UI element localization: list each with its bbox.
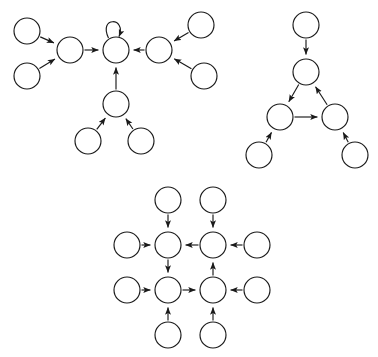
directed-edge xyxy=(174,32,188,41)
graph-node[interactable] xyxy=(191,63,217,89)
graph-node[interactable] xyxy=(155,187,181,213)
figure-canvas xyxy=(0,0,378,357)
directed-graphs-figure xyxy=(0,0,378,357)
top-right-graph-nodes xyxy=(246,12,368,168)
graph-node[interactable] xyxy=(188,12,214,38)
graph-node[interactable] xyxy=(293,59,319,85)
directed-edge xyxy=(39,59,55,68)
directed-edge xyxy=(266,132,271,142)
graph-node[interactable] xyxy=(155,277,181,303)
graph-node[interactable] xyxy=(200,187,226,213)
graph-node[interactable] xyxy=(155,232,181,258)
graph-node[interactable] xyxy=(342,142,368,168)
bottom-graph-nodes xyxy=(114,187,270,348)
graph-node[interactable] xyxy=(322,104,348,130)
graph-node[interactable] xyxy=(57,37,83,63)
directed-edge xyxy=(343,133,348,143)
graph-node[interactable] xyxy=(114,277,140,303)
graph-node[interactable] xyxy=(293,12,319,38)
graph-node[interactable] xyxy=(75,128,101,154)
graph-node[interactable] xyxy=(128,128,154,154)
graph-node[interactable] xyxy=(146,37,172,63)
graph-node[interactable] xyxy=(155,322,181,348)
graph-node[interactable] xyxy=(200,232,226,258)
directed-edge xyxy=(316,87,328,105)
graph-node[interactable] xyxy=(244,277,270,303)
graph-node[interactable] xyxy=(103,37,129,63)
graph-node[interactable] xyxy=(14,63,40,89)
self-loop-edge xyxy=(106,22,120,38)
bottom-graph-edges xyxy=(142,215,243,321)
graph-node[interactable] xyxy=(200,322,226,348)
graph-node[interactable] xyxy=(267,104,293,130)
directed-edge xyxy=(126,119,133,129)
directed-edge xyxy=(40,37,54,43)
directed-edge xyxy=(174,59,191,69)
graph-node[interactable] xyxy=(103,91,129,117)
graph-node[interactable] xyxy=(244,232,270,258)
directed-edge xyxy=(97,118,106,129)
graph-node[interactable] xyxy=(114,232,140,258)
nodes-layer xyxy=(14,12,368,348)
directed-edge xyxy=(289,85,299,102)
graph-node[interactable] xyxy=(14,18,40,44)
graph-node[interactable] xyxy=(246,142,272,168)
graph-node[interactable] xyxy=(200,277,226,303)
